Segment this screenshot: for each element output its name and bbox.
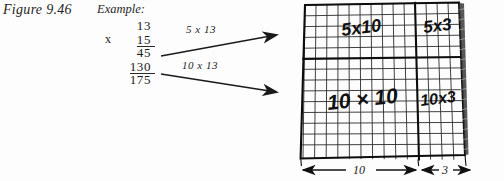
arrow-5x13: 5 x 13 [160,26,290,60]
multiplier-row: x 15 [99,33,155,47]
total-row: 175 [99,73,155,87]
example-label: Example: [97,2,145,17]
partial-product-1-row: 45 [99,46,155,60]
arrow-10x13-label: 10 x 13 [182,59,218,71]
figure-caption: Figure 9.46 [3,2,72,18]
multiplicand: 13 [137,19,155,33]
quadrant-label-top-right: 5x3 [422,15,453,37]
long-multiplication-block: 13 x 15 45 130 175 [99,19,155,87]
product-total: 175 [130,73,155,87]
dimension-line-major: 10 [303,163,416,177]
area-model-svg: 5x10 5x3 10 × 10 10x3 10 [298,0,504,181]
partial-product-1: 45 [137,46,155,60]
quadrant-label-bottom-left: 10 × 10 [326,84,399,114]
dimension-label-major: 10 [353,163,365,177]
figure-page: Figure 9.46 Example: 13 x 15 45 130 175 … [0,0,504,181]
arrow-5x13-label: 5 x 13 [186,23,216,35]
quadrant-label-bottom-right: 10x3 [419,88,457,109]
arrow-5x13-line [160,26,290,60]
partial-product-2-row: 130 [99,60,155,74]
area-model-grid: 5x10 5x3 10 × 10 10x3 10 [298,0,504,181]
multiplicand-row: 13 [99,19,155,33]
dimension-line-minor: 3 [422,163,470,177]
arrow-10x13: 10 x 13 [160,62,290,96]
dimension-label-minor: 3 [441,163,448,177]
arrow-10x13-line [160,62,290,96]
multiply-operator: x [105,33,111,47]
